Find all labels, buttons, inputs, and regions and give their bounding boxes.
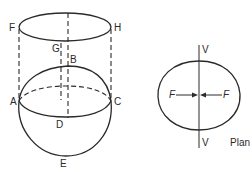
label-C: C — [114, 96, 121, 107]
label-D: D — [56, 119, 63, 130]
label-F: F — [9, 22, 15, 33]
label-B: B — [70, 54, 77, 65]
label-G: G — [52, 43, 60, 54]
force-right-arrowhead-icon — [200, 93, 206, 98]
equator-front-arc — [19, 101, 111, 117]
force-left-arrowhead-icon — [192, 93, 198, 98]
cylinder-top-ellipse — [19, 13, 111, 41]
lower-bowl-arc — [19, 101, 112, 156]
label-E: E — [60, 158, 67, 169]
equator-back-arc — [19, 86, 111, 101]
label-F-left: F — [169, 89, 176, 100]
label-F-right: F — [223, 89, 230, 100]
plan-view: V V F F Plan — [158, 44, 250, 148]
cylinder-hemisphere-diagram: F H G B A C D E V V F F Plan — [0, 0, 252, 172]
plan-caption: Plan — [230, 137, 250, 148]
label-V-top: V — [202, 44, 209, 55]
label-H: H — [114, 22, 121, 33]
label-V-bottom: V — [202, 137, 209, 148]
dome-upper-arc — [19, 66, 111, 101]
elevation-view: F H G B A C D E — [9, 13, 121, 169]
label-A: A — [10, 96, 17, 107]
